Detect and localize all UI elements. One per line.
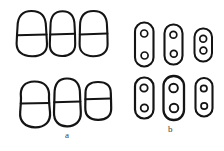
cell-b3-wall [195, 29, 213, 62]
cell-a2 [50, 11, 75, 56]
cell-b4-inclusion-upper [140, 84, 147, 91]
cell-b2 [165, 25, 183, 65]
panel-b-group [135, 23, 213, 121]
cell-b3-inclusion-lower [200, 47, 207, 54]
cell-b1-inclusion-lower [141, 52, 148, 59]
cell-b1-inclusion-upper [141, 30, 148, 37]
cell-b6 [196, 78, 213, 117]
cell-b2-inclusion-lower [170, 50, 177, 57]
cell-a5 [54, 79, 81, 127]
cell-a6 [85, 82, 111, 120]
panel-label-b: b [168, 125, 173, 134]
cell-a6-septum [85, 99, 111, 100]
cell-b6-wall [196, 78, 213, 117]
cell-b3 [195, 29, 213, 62]
panel-a-group [17, 11, 112, 127]
figure-container: a b [0, 0, 224, 151]
cell-a2-septum [50, 34, 75, 35]
cell-morphology-illustration [0, 0, 224, 151]
cell-a1 [17, 11, 47, 56]
cell-b1 [135, 23, 154, 67]
cell-b5-wall [164, 76, 185, 120]
cell-b5-inclusion-upper [169, 84, 178, 93]
cell-a3-septum [80, 34, 108, 35]
cell-a3 [80, 11, 108, 56]
cell-a1-wall [17, 11, 47, 56]
cell-b4-inclusion-lower [141, 104, 148, 111]
cell-b3-inclusion-upper [200, 35, 207, 42]
cell-b1-wall [135, 23, 154, 67]
cell-b2-inclusion-upper [170, 31, 177, 38]
cell-b4 [135, 78, 154, 119]
panel-label-a: a [65, 131, 69, 140]
cell-a5-septum [54, 102, 80, 103]
cell-b5-inclusion-lower [170, 104, 179, 113]
cell-a1-septum [17, 35, 47, 36]
cell-b5 [164, 76, 185, 120]
cell-a4-septum [21, 103, 50, 104]
cell-a6-wall [85, 82, 111, 120]
cell-b6-inclusion-upper [201, 85, 207, 91]
cell-b6-inclusion-lower [201, 103, 207, 109]
cell-a4 [20, 82, 50, 128]
cell-b2-wall [165, 25, 183, 65]
